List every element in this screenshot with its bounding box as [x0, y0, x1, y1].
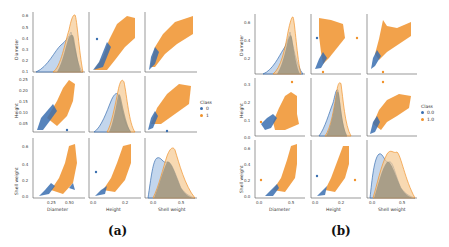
legend-class-b: Class 0.0 1.0: [421, 104, 434, 123]
ytick: 0.2: [244, 56, 250, 61]
ytick: 0.5: [22, 25, 28, 30]
ytick: 0.05: [19, 121, 28, 126]
ytick: 0.1: [244, 118, 250, 123]
ytick: 0.15: [19, 99, 28, 104]
ytick: 0.3: [22, 47, 28, 52]
class-0-marker: [421, 111, 424, 114]
xtick: 0.0: [150, 200, 156, 205]
ytick: 0.25: [19, 77, 28, 82]
ytick: 0.4: [22, 36, 28, 41]
ytick: 0.3: [244, 82, 250, 87]
xtick: 0.0: [312, 200, 318, 205]
kde-shell-weight-b: [367, 140, 417, 198]
legend-label: 0: [206, 106, 209, 111]
legend-class-a: Class 0 1: [200, 100, 212, 119]
legend-title: Class: [421, 104, 434, 109]
ytick: 0.0: [22, 194, 28, 199]
pairplot-panel-b: Diameter Height Shell weight 0.6 0.4 0.2…: [225, 0, 449, 247]
scatter-shell-vs-diameter-a: [145, 12, 197, 72]
scatter-diameter-vs-height-a: [33, 76, 85, 132]
scatter-height-vs-diameter-b: [311, 14, 361, 74]
caption-b: (b): [331, 224, 351, 238]
xlabel-height: Height: [326, 207, 341, 212]
class-1-marker: [200, 114, 203, 117]
ytick: 0.6: [22, 144, 28, 149]
ytick: 0.10: [19, 110, 28, 115]
class-1-marker: [421, 118, 424, 121]
scatter-shell-vs-diameter-b: [367, 14, 417, 74]
kde-height-b: [311, 78, 361, 136]
xlabel-diameter: Diameter: [47, 207, 68, 212]
ytick: 0.2: [22, 58, 28, 63]
legend-label: 1: [206, 113, 209, 118]
legend-title: Class: [200, 100, 212, 105]
xtick: 0.5: [288, 200, 294, 205]
pairplot-panel-a: Diameter Height Shell weight 0.6 0.5 0.4…: [0, 0, 225, 247]
ytick: 0.2: [244, 100, 250, 105]
scatter-height-vs-diameter-a: [89, 12, 141, 72]
ytick: 0.20: [19, 88, 28, 93]
legend-label: 0.0: [427, 110, 434, 115]
kde-shell-weight-a: [145, 138, 197, 198]
ylabel-diameter: Diameter: [14, 39, 19, 60]
ytick: 0.6: [244, 20, 250, 25]
kde-diameter-a: [33, 12, 85, 72]
xtick: 0.25: [47, 200, 56, 205]
ytick: 0.2: [244, 178, 250, 183]
ytick: 0.1: [22, 69, 28, 74]
kde-diameter-b: [255, 14, 305, 74]
xtick: 0.2: [122, 200, 128, 205]
scatter-height-vs-shell-b: [311, 140, 361, 198]
xlabel-diameter: Diameter: [269, 207, 290, 212]
kde-height-a: [89, 76, 141, 132]
scatter-shell-vs-height-b: [367, 78, 417, 136]
xtick: 0.0: [256, 200, 262, 205]
xtick: 0.5: [399, 200, 405, 205]
xtick: 0.0: [90, 200, 96, 205]
ylabel-height: Height: [239, 103, 244, 118]
ytick: 0.6: [244, 146, 250, 151]
ytick: 0.4: [244, 162, 250, 167]
xtick: 0.5: [178, 200, 184, 205]
xtick: 0.50: [65, 200, 74, 205]
ytick: 0.0: [244, 194, 250, 199]
caption-a: (a): [108, 224, 127, 238]
legend-label: 1.0: [427, 117, 434, 122]
scatter-shell-vs-height-a: [145, 76, 197, 132]
scatter-diameter-vs-shell-b: [255, 140, 305, 198]
xlabel-height: Height: [106, 207, 121, 212]
ytick: 0.2: [22, 178, 28, 183]
xlabel-shell-weight: Shell weight: [378, 207, 406, 212]
xtick: 0.2: [338, 200, 344, 205]
class-0-marker: [200, 107, 203, 110]
xtick: 0.0: [369, 200, 375, 205]
scatter-diameter-vs-height-b: [255, 78, 305, 136]
ytick: 0.6: [22, 13, 28, 18]
ytick: 0.0: [244, 135, 250, 140]
scatter-diameter-vs-shell-a: [33, 138, 85, 198]
xlabel-shell-weight: Shell weight: [158, 207, 186, 212]
ytick: 0.4: [244, 38, 250, 43]
ytick: 0.4: [22, 162, 28, 167]
ylabel-shell-weight: Shell weight: [14, 167, 19, 195]
scatter-height-vs-shell-a: [89, 138, 141, 198]
